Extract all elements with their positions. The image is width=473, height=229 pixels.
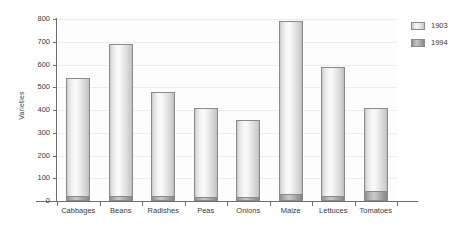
x-axis-label-peas: Peas xyxy=(197,206,214,215)
x-axis-label-beans: Beans xyxy=(110,206,131,215)
x-axis-tick xyxy=(142,201,143,206)
bar-segment-1903[interactable] xyxy=(194,108,218,201)
bar-chart: Varieties 0100200300400500600700800 Cabb… xyxy=(0,0,473,229)
bar-segment-1994[interactable] xyxy=(194,197,218,201)
x-axis-tick xyxy=(227,201,228,206)
y-axis-tick: 200 xyxy=(0,156,57,157)
bar-segment-1994[interactable] xyxy=(66,196,90,201)
x-axis-tick xyxy=(270,201,271,206)
y-axis-title-label: Varieties xyxy=(18,91,25,120)
y-axis-tick-label: 300 xyxy=(37,128,50,137)
bar-stack[interactable] xyxy=(109,44,133,201)
x-axis-label-cabbages: Cabbages xyxy=(61,206,95,215)
bar-stack[interactable] xyxy=(236,120,260,201)
bar-segment-1994[interactable] xyxy=(279,194,303,201)
x-axis-label-onions: Onions xyxy=(236,206,260,215)
y-axis-tick: 800 xyxy=(0,19,57,20)
bar-segment-1903[interactable] xyxy=(109,44,133,201)
bar-segment-1994[interactable] xyxy=(236,197,260,201)
y-axis-tick: 0 xyxy=(0,201,57,202)
legend-label-1903: 1903 xyxy=(431,21,448,30)
y-axis-tick-label: 800 xyxy=(37,14,50,23)
y-axis-tick: 600 xyxy=(0,65,57,66)
legend-swatch-1903 xyxy=(411,22,425,30)
x-axis-tick xyxy=(397,201,398,206)
bar-stack[interactable] xyxy=(279,21,303,201)
bar-segment-1903[interactable] xyxy=(236,120,260,201)
y-axis-tick: 500 xyxy=(0,87,57,88)
x-axis-tick xyxy=(312,201,313,206)
x-axis-label-tomatoes: Tomatoes xyxy=(359,206,392,215)
y-axis-tick-label: 600 xyxy=(37,60,50,69)
bar-segment-1994[interactable] xyxy=(321,196,345,201)
legend: 19031994 xyxy=(411,19,471,53)
x-axis-label-radishes: Radishes xyxy=(148,206,179,215)
bar-segment-1903[interactable] xyxy=(66,78,90,201)
x-axis-tick xyxy=(57,201,58,206)
y-axis-tick-label: 0 xyxy=(46,196,50,205)
bar-segment-1903[interactable] xyxy=(151,92,175,201)
bar-stack[interactable] xyxy=(151,92,175,201)
bar-segment-1994[interactable] xyxy=(364,191,388,201)
bar-segment-1903[interactable] xyxy=(279,21,303,201)
x-axis-label-lettuces: Lettuces xyxy=(319,206,347,215)
y-axis-tick-label: 700 xyxy=(37,37,50,46)
bar-segment-1994[interactable] xyxy=(109,196,133,201)
y-axis-tick: 700 xyxy=(0,42,57,43)
bar-segment-1994[interactable] xyxy=(151,196,175,201)
bars-layer xyxy=(57,19,397,201)
legend-label-1994: 1994 xyxy=(431,38,448,47)
legend-swatch-1994 xyxy=(411,39,425,47)
y-axis-tick: 300 xyxy=(0,133,57,134)
bar-stack[interactable] xyxy=(66,78,90,201)
legend-item-1903[interactable]: 1903 xyxy=(411,19,471,32)
legend-item-1994[interactable]: 1994 xyxy=(411,36,471,49)
x-axis-label-maize: Maize xyxy=(281,206,301,215)
y-axis-tick: 400 xyxy=(0,110,57,111)
x-axis-tick xyxy=(100,201,101,206)
y-axis-tick-label: 400 xyxy=(37,105,50,114)
bar-segment-1903[interactable] xyxy=(364,108,388,201)
y-axis-tick-label: 200 xyxy=(37,151,50,160)
bar-stack[interactable] xyxy=(321,67,345,201)
x-axis-tick xyxy=(185,201,186,206)
y-axis-tick-label: 100 xyxy=(37,173,50,182)
bar-stack[interactable] xyxy=(194,108,218,201)
y-axis-tick-label: 500 xyxy=(37,82,50,91)
x-axis-tick xyxy=(355,201,356,206)
bar-segment-1903[interactable] xyxy=(321,67,345,201)
y-axis-tick: 100 xyxy=(0,178,57,179)
bar-stack[interactable] xyxy=(364,108,388,201)
